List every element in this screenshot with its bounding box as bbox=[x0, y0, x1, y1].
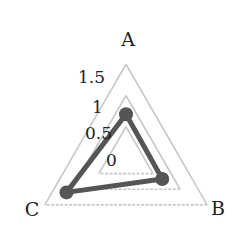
radial-tick-label: 0 bbox=[106, 150, 117, 170]
data-point-a bbox=[119, 107, 133, 121]
radial-tick-label: 0.5 bbox=[85, 123, 112, 143]
data-point-b bbox=[155, 172, 169, 186]
radar-chart: 00.511.5 ABC bbox=[0, 0, 248, 234]
radial-tick-label: 1.5 bbox=[78, 67, 105, 87]
data-point-c bbox=[59, 185, 73, 199]
axis-label-a: A bbox=[120, 28, 135, 50]
axis-label-c: C bbox=[25, 198, 40, 220]
radial-tick-label: 1 bbox=[92, 97, 103, 117]
axis-labels: ABC bbox=[25, 28, 225, 220]
axis-label-b: B bbox=[211, 197, 225, 219]
